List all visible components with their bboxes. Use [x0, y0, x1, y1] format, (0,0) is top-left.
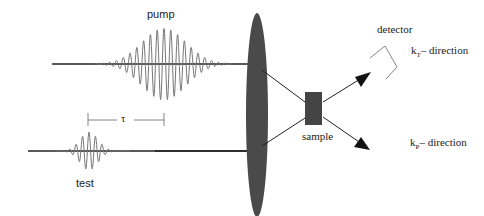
- sample-block: [305, 92, 322, 125]
- tau-delay-marker: [88, 113, 164, 126]
- pump-label: pump: [147, 8, 175, 20]
- test-label: test: [76, 177, 94, 189]
- lens: [246, 13, 268, 216]
- tau-label: τ: [121, 112, 125, 124]
- kp-direction-label: kP– direction: [410, 136, 467, 151]
- kp-arrowhead-icon: [354, 137, 370, 150]
- detector-label: detector: [377, 23, 412, 35]
- pump-focused-beam: [262, 70, 305, 102]
- kt-direction-label: kT– direction: [411, 44, 468, 59]
- kt-arrowhead-icon: [355, 72, 371, 87]
- detector-icon: [370, 46, 397, 79]
- sample-label: sample: [302, 130, 333, 142]
- test-focused-beam: [262, 118, 305, 146]
